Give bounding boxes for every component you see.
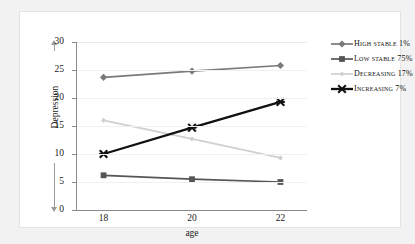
x-tick-label: 20 [177,214,207,224]
y-tick-label: 15 [42,121,64,131]
data-point-diamond [100,74,107,81]
y-tick-mark [72,182,77,183]
legend-item-decreasing[interactable]: Decreasing 17% [330,66,415,81]
gridline [77,70,307,71]
x-axis-label: age [77,228,307,238]
plot-area [77,42,307,210]
data-point-x [338,85,347,93]
x-tick-label: 22 [265,214,295,224]
series-increasing-7 [99,98,285,158]
legend-item-high-stable[interactable]: High stable 1% [330,36,415,51]
y-tick-label: 0 [42,205,64,215]
y-tick-label: 10 [42,149,64,159]
y-tick-mark [72,210,77,211]
legend-marker-square-icon [330,52,354,66]
data-point-x [276,98,285,106]
y-tick-mark [72,70,77,71]
chart-card: Depression age High stable 1% Low stable… [19,11,401,228]
data-point-star [278,155,283,160]
gridline [77,126,307,127]
legend-marker-x-icon [330,82,354,96]
y-tick-mark [72,154,77,155]
series-low-stable-75 [101,172,284,185]
legend-label: Increasing 7% [354,84,406,93]
chart-screenshot: Depression age High stable 1% Low stable… [0,0,415,244]
legend-label: High stable 1% [354,39,410,48]
data-point-square [339,56,345,62]
chart-legend: High stable 1% Low stable 75% Decreasing… [330,36,415,96]
y-tick-label: 25 [42,65,64,75]
gridline [77,42,307,43]
y-tick-mark [72,126,77,127]
y-tick-mark [72,42,77,43]
data-point-square [101,172,107,178]
y-tick-mark [72,98,77,99]
data-point-diamond [188,68,195,75]
legend-marker-star-icon [330,67,354,81]
legend-marker-diamond-icon [330,37,354,51]
x-axis-line [76,210,307,211]
y-tick-label: 30 [42,37,64,47]
y-tick-label: 20 [42,93,64,103]
data-point-star [339,71,344,76]
legend-label: Decreasing 17% [354,69,413,78]
legend-item-low-stable[interactable]: Low stable 75% [330,51,415,66]
legend-item-increasing[interactable]: Increasing 7% [330,81,415,96]
data-point-star [189,136,194,141]
x-tick-label: 18 [89,214,119,224]
gridline [77,154,307,155]
legend-label: Low stable 75% [354,54,413,63]
data-point-star [101,118,106,123]
gridline [77,98,307,99]
gridline [77,182,307,183]
data-point-diamond [338,40,345,47]
y-tick-label: 5 [42,177,64,187]
series-high-stable-1 [100,62,284,81]
data-point-diamond [277,62,284,69]
